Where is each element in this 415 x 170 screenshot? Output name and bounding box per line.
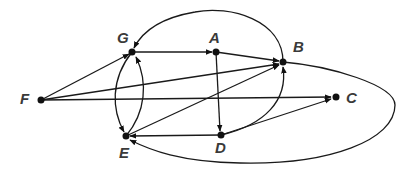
edge-D-E (130, 135, 221, 136)
node-E: E (119, 133, 130, 162)
svg-text:G: G (117, 29, 129, 46)
svg-text:E: E (119, 144, 130, 161)
svg-text:B: B (293, 38, 304, 55)
directed-graph-diagram: A B C D E F G (0, 0, 415, 170)
node-B: B (280, 38, 305, 66)
svg-text:D: D (215, 139, 226, 156)
svg-text:A: A (208, 29, 220, 46)
node-C: C (333, 89, 359, 106)
edge-G-E (115, 52, 132, 132)
svg-text:F: F (20, 90, 30, 107)
edge-E-G (126, 57, 143, 136)
edge-A-D (216, 52, 220, 131)
edge-A-B (216, 52, 279, 61)
edge-F-C (41, 97, 331, 100)
node-G: G (117, 29, 136, 56)
edge-B-E (130, 62, 395, 163)
node-F: F (20, 90, 45, 107)
svg-text:C: C (346, 89, 358, 106)
